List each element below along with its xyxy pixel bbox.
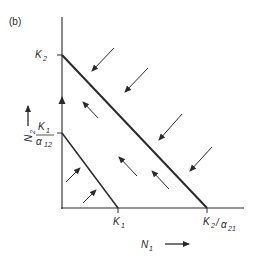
n2-isocline [62,55,207,208]
label-k1: K 1 [113,216,125,229]
svg-text:2: 2 [42,55,47,62]
svg-text:12: 12 [44,141,52,148]
label-k1-over-alpha12: K 1 α 12 [36,121,54,148]
svg-text:1: 1 [46,127,50,134]
phase-plane-diagram: (b) K 2 K 1 [0,0,254,262]
arrow-icon [119,157,137,176]
arrow-icon [66,168,80,182]
arrow-icon [83,190,96,203]
arrow-icon [190,147,212,171]
svg-text:K: K [35,49,43,60]
svg-text:α: α [221,219,227,230]
svg-text:1: 1 [149,245,153,252]
svg-text:/: / [215,217,220,228]
svg-text:1: 1 [121,222,125,229]
svg-text:N: N [141,239,149,250]
arrow-icon [152,171,169,189]
svg-text:21: 21 [227,225,236,232]
svg-text:2: 2 [210,222,215,229]
arrow-icon [83,102,98,118]
panel-label: (b) [9,16,21,27]
arrow-icon [92,48,114,71]
svg-text:α: α [36,136,42,147]
arrow-icon [159,114,182,140]
n1-isocline [62,133,118,208]
svg-text:K: K [38,121,46,132]
svg-text:K: K [113,216,121,227]
label-k2: K 2 [35,49,47,62]
svg-text:N: N [23,134,34,142]
svg-text:K: K [203,216,211,227]
y-axis-arrow-icon [59,96,66,104]
svg-text:2: 2 [29,130,36,135]
label-k2-over-alpha21: K 2 / α 21 [203,216,236,232]
arrow-icon [125,68,148,92]
y-axis-label: N 2 [23,130,36,142]
x-axis-label: N 1 [141,239,153,252]
